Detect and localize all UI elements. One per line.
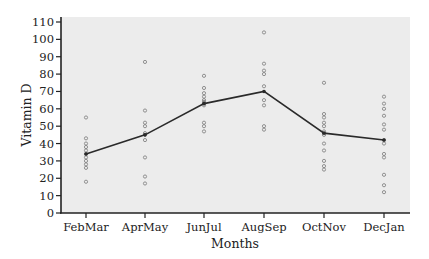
x-tick-label: OctNov bbox=[302, 220, 346, 234]
y-axis-title: Vitamin D bbox=[19, 83, 34, 147]
y-tick-label: 10 bbox=[39, 189, 54, 203]
y-tick-label: 60 bbox=[39, 102, 54, 116]
y-tick-label: 40 bbox=[39, 137, 54, 151]
y-tick-label: 110 bbox=[32, 15, 54, 29]
x-tick-label: AugSep bbox=[240, 220, 286, 234]
x-tick-label: AprMay bbox=[121, 220, 169, 234]
y-tick-label: 30 bbox=[39, 154, 54, 168]
mean-point bbox=[202, 102, 206, 106]
x-tick-label: FebMar bbox=[63, 220, 109, 234]
y-tick-label: 90 bbox=[39, 50, 54, 64]
mean-point bbox=[382, 138, 386, 142]
x-axis: FebMarAprMayJunJulAugSepOctNovDecJan bbox=[60, 213, 410, 234]
chart: 0102030405060708090100110 FebMarAprMayJu… bbox=[0, 0, 429, 259]
y-axis: 0102030405060708090100110 bbox=[32, 15, 61, 220]
mean-point bbox=[143, 133, 147, 137]
y-tick-label: 100 bbox=[32, 32, 54, 46]
y-tick-label: 50 bbox=[39, 119, 54, 133]
mean-point bbox=[84, 152, 88, 156]
x-axis-title: Months bbox=[211, 236, 259, 251]
y-tick-label: 70 bbox=[39, 84, 54, 98]
x-tick-label: DecJan bbox=[363, 220, 405, 234]
y-tick-label: 20 bbox=[39, 171, 54, 185]
mean-point bbox=[262, 90, 266, 94]
plot-background bbox=[61, 17, 410, 213]
y-tick-label: 0 bbox=[47, 206, 54, 220]
x-tick-label: JunJul bbox=[185, 220, 221, 234]
mean-point bbox=[322, 131, 326, 135]
y-tick-label: 80 bbox=[39, 67, 54, 81]
